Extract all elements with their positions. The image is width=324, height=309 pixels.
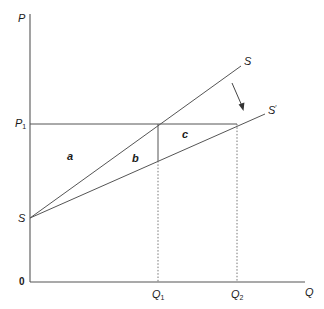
q2-label: Q2 xyxy=(231,289,243,301)
region-c-label: c xyxy=(182,129,188,140)
supply-shift-diagram: P Q 0 P1 S S S′ Q1 Q2 a b c xyxy=(0,0,324,309)
origin-label: 0 xyxy=(19,277,25,287)
s-intercept-label: S xyxy=(18,213,25,224)
q2-label-main: Q xyxy=(231,288,240,300)
shift-arrow-icon xyxy=(232,83,244,111)
p1-label-sub: 1 xyxy=(22,123,26,130)
q1-label-sub: 1 xyxy=(161,294,165,301)
diagram-canvas xyxy=(0,0,324,309)
p1-label: P1 xyxy=(15,118,26,130)
q1-label: Q1 xyxy=(152,289,164,301)
x-axis-label: Q xyxy=(305,287,314,298)
supply-curve-s-prime xyxy=(30,114,265,218)
supply-curve-s xyxy=(30,66,241,218)
region-b-label: b xyxy=(132,153,139,164)
s-prime-label-sup: ′ xyxy=(275,104,276,111)
q1-label-main: Q xyxy=(152,288,161,300)
y-axis-label: P xyxy=(18,13,25,24)
s-curve-label: S xyxy=(244,56,251,67)
region-a-label: a xyxy=(67,151,73,162)
q2-label-sub: 2 xyxy=(240,294,244,301)
s-prime-curve-label: S′ xyxy=(268,104,277,116)
